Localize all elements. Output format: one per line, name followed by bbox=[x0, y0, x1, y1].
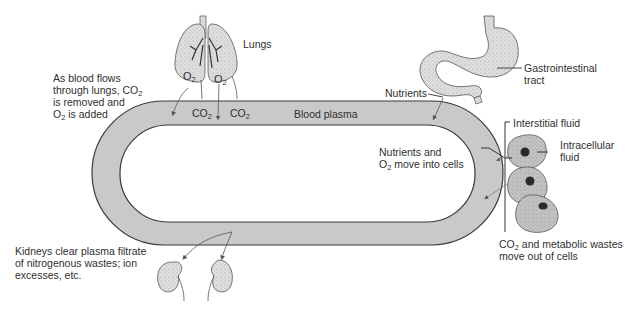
nutrients-into-cells-line2: O2 move into cells bbox=[379, 158, 464, 170]
wastes-out-line2: move out of cells bbox=[499, 250, 578, 262]
co2-label-b: CO2 bbox=[230, 107, 250, 119]
lungs-note-line2: through lungs, CO2 bbox=[53, 84, 142, 96]
blood-plasma-loop bbox=[92, 101, 503, 245]
kidneys-note-line1: Kidneys clear plasma filtrate bbox=[15, 245, 146, 257]
kidneys-note-line3: excesses, etc. bbox=[15, 269, 82, 281]
lungs-note-line1: As blood flows bbox=[53, 72, 121, 84]
intracellular-fluid-label-line1: Intracellular bbox=[560, 139, 614, 151]
intracellular-fluid-label-line2: fluid bbox=[560, 151, 579, 163]
lungs-label: Lungs bbox=[243, 38, 272, 50]
gi-tract-label-line1: Gastrointestinal bbox=[524, 62, 597, 74]
lung-o2-right-label: O2 bbox=[214, 73, 227, 85]
tissue-cells bbox=[508, 135, 558, 233]
blood-plasma-label: Blood plasma bbox=[294, 108, 358, 120]
co2-label-a: CO2 bbox=[192, 107, 212, 119]
lungs-note-line3: is removed and bbox=[53, 96, 125, 108]
nutrients-label: Nutrients bbox=[385, 87, 427, 99]
kidneys-note-line2: of nitrogenous wastes; ion bbox=[15, 257, 137, 269]
lung-o2-left-label: O2 bbox=[183, 70, 196, 82]
nutrients-into-cells-line1: Nutrients and bbox=[379, 146, 441, 158]
lungs-note-line4: O2 is added bbox=[53, 108, 108, 120]
interstitial-fluid-label: Interstitial fluid bbox=[513, 117, 580, 129]
wastes-out-line1: CO2 and metabolic wastes bbox=[499, 238, 623, 250]
gastrointestinal-tract-icon bbox=[420, 16, 518, 104]
gi-tract-label-line2: tract bbox=[524, 74, 544, 86]
